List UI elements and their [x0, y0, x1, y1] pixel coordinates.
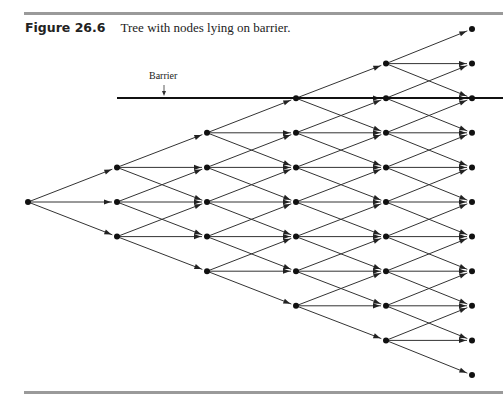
arrowhead-icon — [162, 91, 166, 96]
tree-node — [383, 130, 389, 136]
tree-node — [469, 26, 475, 32]
arrowhead-icon — [373, 269, 380, 274]
tree-edge — [386, 169, 467, 202]
tree-node — [204, 234, 210, 240]
bottom-rule — [24, 391, 503, 394]
arrowhead-icon — [373, 160, 380, 165]
tree-edge — [386, 204, 467, 237]
tree-edge — [386, 340, 467, 373]
tree-edge — [386, 273, 467, 306]
arrowhead-icon — [459, 31, 466, 36]
arrowhead-icon — [459, 165, 466, 170]
tree-node — [293, 164, 299, 170]
arrowhead-icon — [459, 135, 466, 140]
arrowhead-icon — [459, 91, 466, 96]
arrowhead-icon — [104, 170, 111, 175]
arrowhead-icon — [459, 273, 466, 278]
arrowhead-icon — [373, 170, 380, 175]
tree-edge — [386, 308, 467, 341]
arrowhead-icon — [283, 135, 290, 140]
tree-edge — [296, 238, 381, 271]
tree-edge — [386, 64, 467, 97]
arrowhead-icon — [373, 100, 380, 105]
tree-edge — [296, 135, 381, 168]
arrowhead-icon — [459, 264, 466, 269]
tree-edge — [296, 65, 381, 98]
tree-edge — [386, 98, 467, 131]
arrowhead-icon — [283, 195, 290, 200]
tree-edge — [296, 167, 381, 200]
arrowhead-icon — [459, 160, 466, 165]
tree-edge — [386, 271, 467, 304]
tree-node — [293, 268, 299, 274]
tree-edge — [296, 273, 381, 306]
tree-node — [293, 95, 299, 101]
arrowhead-icon — [104, 229, 111, 234]
arrowhead-icon — [373, 303, 380, 308]
tree-edge — [296, 100, 381, 133]
tree-edge — [207, 169, 291, 202]
arrowhead-icon — [283, 199, 290, 204]
arrowhead-icon — [194, 230, 201, 235]
arrowhead-icon — [459, 204, 466, 209]
arrowhead-icon — [283, 165, 290, 170]
tree-edge — [117, 204, 202, 237]
tree-node — [469, 234, 475, 240]
tree-edge — [296, 306, 381, 339]
tree-edge — [386, 100, 467, 133]
arrowhead-icon — [459, 269, 466, 274]
tree-edges — [28, 31, 467, 373]
tree-node — [469, 303, 475, 309]
tree-node — [469, 268, 475, 274]
tree-node — [204, 199, 210, 205]
tree-node — [293, 130, 299, 136]
tree-node — [204, 268, 210, 274]
arrowhead-icon — [373, 135, 380, 140]
arrowhead-icon — [459, 234, 466, 239]
tree-edge — [386, 31, 467, 64]
arrowhead-icon — [373, 130, 380, 135]
arrowhead-icon — [459, 333, 466, 338]
arrowhead-icon — [459, 199, 466, 204]
tree-node — [204, 130, 210, 136]
arrowhead-icon — [373, 230, 380, 235]
tree-node — [293, 234, 299, 240]
tree-edge — [386, 65, 467, 98]
tree-node — [469, 61, 475, 67]
arrowhead-icon — [283, 160, 290, 165]
arrowhead-icon — [194, 264, 201, 269]
arrowhead-icon — [283, 269, 290, 274]
tree-node — [114, 164, 120, 170]
tree-edge — [207, 271, 291, 304]
arrowhead-icon — [194, 199, 201, 204]
arrowhead-icon — [373, 264, 380, 269]
tree-edge — [296, 133, 381, 166]
arrowhead-icon — [373, 195, 380, 200]
arrowhead-icon — [459, 239, 466, 244]
arrowhead-icon — [373, 165, 380, 170]
tree-edge — [207, 238, 291, 271]
tree-edge — [386, 306, 467, 339]
tree-node — [114, 234, 120, 240]
tree-edge — [296, 237, 381, 270]
tree-edge — [207, 100, 291, 133]
arrowhead-icon — [373, 299, 380, 304]
tree-edge — [386, 202, 467, 235]
tree-edge — [386, 237, 467, 270]
tree-edge — [117, 167, 202, 200]
tree-node — [383, 268, 389, 274]
arrowhead-icon — [283, 264, 290, 269]
arrowhead-icon — [194, 165, 201, 170]
arrowhead-icon — [283, 229, 290, 234]
trinomial-tree-diagram — [0, 0, 503, 407]
arrowhead-icon — [283, 239, 290, 244]
arrowhead-icon — [459, 130, 466, 135]
tree-edge — [28, 202, 112, 235]
tree-node — [469, 372, 475, 378]
arrowhead-icon — [283, 299, 290, 304]
tree-node — [383, 337, 389, 343]
arrowhead-icon — [194, 195, 201, 200]
arrowhead-icon — [459, 100, 466, 105]
arrowhead-icon — [459, 170, 466, 175]
tree-edge — [296, 202, 381, 235]
